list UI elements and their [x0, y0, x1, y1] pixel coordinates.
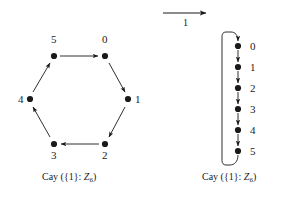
vertex-right-0 [235, 43, 241, 49]
vertex-label-left-3: 3 [51, 150, 57, 161]
figure-canvas [0, 0, 302, 200]
right-graph-edges [222, 32, 238, 165]
right-graph-caption: Cay ({1}: Z6) [202, 172, 256, 182]
vertex-right-2 [235, 85, 241, 91]
left-caption-set: {1} [64, 171, 79, 182]
vertex-label-right-0: 0 [250, 41, 256, 52]
generator-label: 1 [183, 18, 188, 28]
vertex-right-3 [235, 106, 241, 112]
right-caption-suffix: ) [253, 171, 256, 182]
vertex-label-left-4: 4 [18, 94, 24, 105]
vertex-left-4 [27, 96, 33, 102]
left-graph-edges [33, 56, 125, 144]
vertex-label-right-1: 1 [250, 62, 256, 73]
cayley-graph-figure: 1 0 1 2 3 4 5 0 1 2 3 4 5 Cay ({1}: Z6) … [0, 0, 302, 200]
vertex-right-4 [235, 127, 241, 133]
right-caption-prefix: Cay ( [202, 171, 224, 182]
vertex-label-right-4: 4 [250, 125, 256, 136]
vertex-label-left-0: 0 [102, 34, 108, 45]
vertex-right-5 [235, 148, 241, 154]
vertex-label-right-5: 5 [250, 146, 256, 157]
vertex-left-1 [125, 96, 131, 102]
left-graph-vertices [27, 53, 131, 147]
vertex-left-0 [102, 53, 108, 59]
vertex-label-left-1: 1 [135, 94, 141, 105]
right-caption-set: {1} [224, 171, 239, 182]
left-caption-group-sub: 6 [89, 176, 93, 184]
left-graph-caption: Cay ({1}: Z6) [42, 172, 96, 182]
vertex-label-right-3: 3 [250, 104, 256, 115]
vertex-left-5 [51, 53, 57, 59]
vertex-label-left-5: 5 [51, 34, 57, 45]
left-caption-suffix: ) [93, 171, 96, 182]
left-caption-prefix: Cay ( [42, 171, 64, 182]
wraparound-edge [222, 32, 238, 165]
vertex-label-right-2: 2 [250, 83, 256, 94]
vertex-right-1 [235, 64, 241, 70]
vertex-left-2 [102, 141, 108, 147]
vertex-left-3 [51, 141, 57, 147]
right-caption-group-sub: 6 [249, 176, 253, 184]
vertex-label-left-2: 2 [102, 150, 108, 161]
